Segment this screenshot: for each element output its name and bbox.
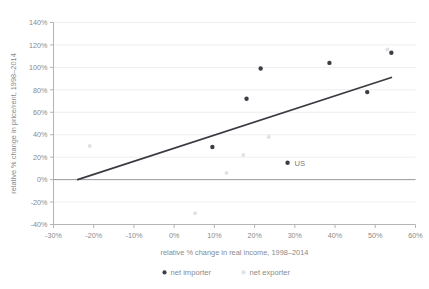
data-point-net-importer (210, 145, 214, 149)
x-tick-label: 40% (328, 231, 343, 240)
y-tick-label: -20% (31, 198, 48, 207)
legend-marker-net-exporter (241, 270, 245, 274)
y-tick-label: 100% (29, 63, 48, 72)
data-point-net-exporter (88, 144, 92, 148)
legend-label-net-importer: net importer (171, 268, 212, 277)
data-point-net-importer (258, 66, 262, 70)
point-labels: US (295, 159, 306, 168)
x-axis-title: relative % change in real income, 1998–2… (161, 248, 309, 257)
data-point-net-exporter (224, 171, 228, 175)
x-tick-label: 0% (169, 231, 180, 240)
data-point-net-importer (327, 61, 331, 65)
data-point-net-importer (285, 161, 289, 165)
y-tick-label: 20% (33, 153, 48, 162)
x-tick-label: -10% (126, 231, 143, 240)
y-tick-label: 120% (29, 41, 48, 50)
y-axis-title: relative % change in price/rent, 1998–20… (9, 53, 18, 194)
y-tick-label: 0% (37, 175, 48, 184)
y-tick-label: -40% (31, 220, 48, 229)
x-tick-label: 50% (368, 231, 383, 240)
data-point-net-importer (365, 90, 369, 94)
y-tick-label: 40% (33, 130, 48, 139)
scatter-chart: -30%-20%-10%0%10%20%30%40%50%60% -40%-20… (0, 0, 429, 289)
data-point-net-exporter (385, 47, 389, 51)
x-tick-label: -30% (45, 231, 62, 240)
data-point-net-exporter (193, 211, 197, 215)
data-point-net-exporter (267, 135, 271, 139)
data-point-net-exporter (241, 153, 245, 157)
legend-label-net-exporter: net exporter (250, 268, 291, 277)
x-tick-label: 60% (408, 231, 423, 240)
y-tick-label: 60% (33, 108, 48, 117)
y-tick-label: 140% (29, 18, 48, 27)
data-point-net-importer (244, 97, 248, 101)
chart-background (0, 0, 429, 289)
x-tick-label: 30% (288, 231, 303, 240)
chart-canvas: -30%-20%-10%0%10%20%30%40%50%60% -40%-20… (0, 0, 429, 289)
x-tick-label: -20% (85, 231, 102, 240)
legend-marker-net-importer (162, 270, 166, 274)
x-tick-label: 20% (247, 231, 262, 240)
x-tick-label: 10% (207, 231, 222, 240)
y-tick-label: 80% (33, 86, 48, 95)
data-point-net-importer (389, 51, 393, 55)
data-point-label: US (295, 159, 306, 168)
